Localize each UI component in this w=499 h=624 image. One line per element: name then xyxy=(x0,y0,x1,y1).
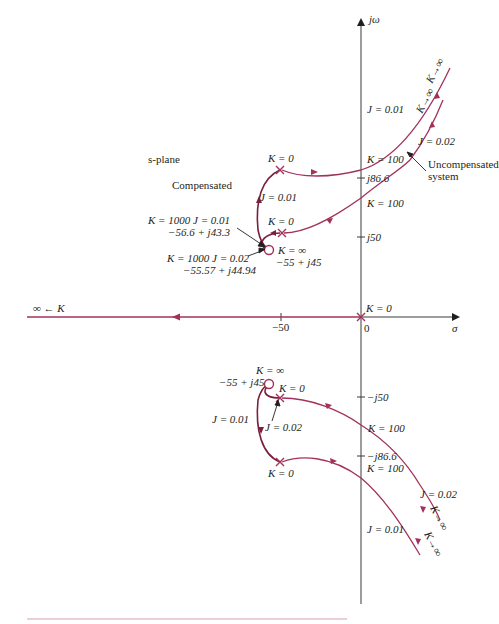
upper-j001-right: J = 0.01 xyxy=(367,103,404,115)
lower-kinf: K = ∞ xyxy=(255,364,284,376)
lower-j001-right: J = 0.01 xyxy=(367,523,404,535)
k1000-j001-line1: K = 1000 J = 0.01 xyxy=(147,214,230,226)
imag-axis-label: jω xyxy=(367,13,380,25)
uncompensated-label-1: Uncompensated xyxy=(428,158,499,170)
upper-j001-mid: J = 0.01 xyxy=(260,191,297,203)
k1000-j001-line2: −56.6 + j43.3 xyxy=(168,226,230,238)
tick-label-mj86: −j86.6 xyxy=(367,450,397,462)
root-locus-diagram: jω σ 0 −50 j86.6 j50 −j50 −j86.6 s-plane… xyxy=(0,0,499,624)
lower-j001-left: J = 0.01 xyxy=(212,413,249,425)
s-plane-label: s-plane xyxy=(148,153,180,165)
tick-label-mj50: −j50 xyxy=(367,391,389,403)
real-axis-label: σ xyxy=(452,322,458,334)
arrow-icon xyxy=(326,218,333,224)
lower-k0-a: K = 0 xyxy=(278,382,305,394)
lower-k100-b: K = 100 xyxy=(366,462,404,474)
lower-zero-loc: −55 + j45 xyxy=(219,376,265,388)
real-axis-locus xyxy=(27,313,365,321)
zero-o-icon xyxy=(265,246,274,255)
upper-k0-b: K = 0 xyxy=(267,215,294,227)
upper-j002-right: J = 0.02 xyxy=(418,135,456,147)
k1000-j002-line1: K = 1000 J = 0.02 xyxy=(166,252,250,264)
upper-k100-a: K = 100 xyxy=(366,153,404,165)
tick-label-minus50: −50 xyxy=(272,321,290,333)
lower-j002-mid: J = 0.02 xyxy=(265,421,303,433)
k-inf-left-label: ∞ ← K xyxy=(33,302,65,314)
lower-k-to-inf-2: K→∞ xyxy=(422,528,445,558)
origin-label: 0 xyxy=(364,322,370,334)
arrow-left-icon xyxy=(172,314,180,321)
arrow-icon xyxy=(415,538,421,545)
upper-zero-loc: −55 + j45 xyxy=(276,256,322,268)
labels: jω σ 0 −50 j86.6 j50 −j50 −j86.6 s-plane… xyxy=(33,13,499,558)
upper-k-to-inf-1: K→∞ xyxy=(423,56,446,86)
lower-j002-right: J = 0.02 xyxy=(420,488,458,500)
upper-kinf: K = ∞ xyxy=(277,244,306,256)
lower-k-to-inf-1: K→∞ xyxy=(428,502,451,532)
upper-k100-b: K = 100 xyxy=(366,197,404,209)
compensated-label: Compensated xyxy=(172,179,232,191)
arrow-icon xyxy=(420,506,426,513)
arrow-icon xyxy=(311,169,318,175)
lower-k100-a: K = 100 xyxy=(367,422,405,434)
tick-label-j50: j50 xyxy=(365,231,382,243)
arrow-icon xyxy=(429,121,435,128)
uncompensated-label-2: system xyxy=(428,170,459,182)
k1000-j002-line2: −55.57 + j44.94 xyxy=(183,264,256,276)
k-zero-origin-label: K = 0 xyxy=(365,302,392,314)
tick-label-j86: j86.6 xyxy=(365,172,390,184)
zero-o-icon xyxy=(265,380,274,389)
lower-k0-b: K = 0 xyxy=(267,467,294,479)
upper-k0-a: K = 0 xyxy=(267,152,294,164)
